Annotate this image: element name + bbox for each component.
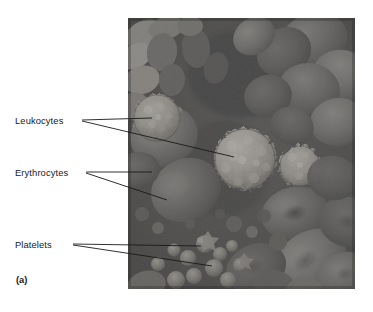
callout-label-leukocytes: Leukocytes <box>15 115 63 126</box>
panel-letter-label: (a) <box>16 274 27 285</box>
callout-label-erythrocytes: Erythrocytes <box>15 167 68 178</box>
callout-label-platelets: Platelets <box>15 239 52 250</box>
micrograph-canvas <box>128 18 355 289</box>
figure-panel-a: Leukocytes Erythrocytes Platelets (a) <box>0 0 373 312</box>
blood-cells-micrograph <box>128 18 355 289</box>
